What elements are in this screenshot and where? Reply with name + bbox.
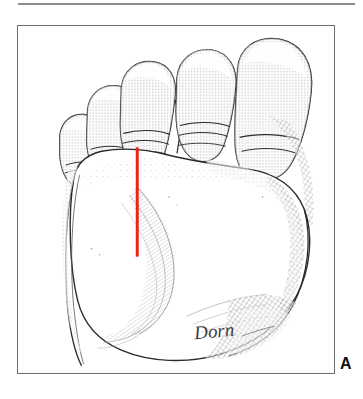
figure-frame: Dorn	[17, 25, 335, 374]
panel-label-a: A	[340, 355, 352, 373]
signature-text: Dorn	[192, 319, 235, 343]
top-divider-rule	[18, 3, 355, 5]
toe-second	[176, 50, 241, 162]
foot-plantar-illustration: Dorn	[18, 26, 334, 373]
